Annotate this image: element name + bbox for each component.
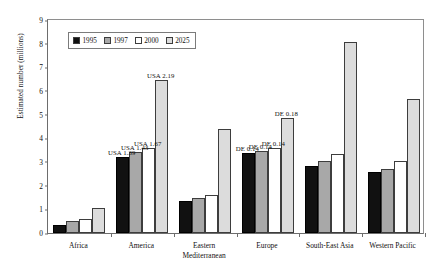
bar-western-pacific-2000[interactable] <box>394 161 407 233</box>
bar-series-container <box>48 20 423 233</box>
x-label-2: America <box>110 241 173 251</box>
x-tick-1 <box>111 233 112 237</box>
legend-swatch-icon-2000 <box>135 37 142 44</box>
x-tick-2 <box>174 233 175 237</box>
x-label-line1: Africa <box>47 241 110 251</box>
bar-europe-1997[interactable] <box>255 151 268 233</box>
x-label-6: Western Pacific <box>361 241 424 251</box>
x-label-line1: America <box>110 241 173 251</box>
x-label-4: Europe <box>236 241 299 251</box>
y-tick-0: 0 <box>39 229 48 238</box>
bar-western-pacific-2025[interactable] <box>407 99 420 233</box>
y-tick-5: 5 <box>39 110 48 119</box>
bar-africa-1997[interactable] <box>66 221 79 233</box>
bar-america-2000[interactable] <box>142 148 155 233</box>
bar-group-2 <box>116 20 168 233</box>
y-tick-8: 8 <box>39 39 48 48</box>
y-tick-6: 6 <box>39 86 48 95</box>
legend-label-2025: 2025 <box>175 37 189 45</box>
x-label-1: Africa <box>47 241 110 251</box>
bar-south-east-asia-2025[interactable] <box>344 42 357 233</box>
bar-africa-2000[interactable] <box>79 219 92 233</box>
x-label-line2: Mediterranean <box>173 251 236 261</box>
legend-item-1997[interactable]: 1997 <box>104 37 128 45</box>
legend-label-1997: 1997 <box>113 37 127 45</box>
bar-america-1995[interactable] <box>116 157 129 233</box>
bar-eastern-mediterranean-1995[interactable] <box>179 201 192 233</box>
bar-group-5 <box>305 20 357 233</box>
x-label-line1: Eastern <box>173 241 236 251</box>
bar-south-east-asia-1995[interactable] <box>305 166 318 233</box>
bar-europe-1995[interactable] <box>242 153 255 233</box>
bar-europe-2025[interactable] <box>281 118 294 233</box>
bar-eastern-mediterranean-2000[interactable] <box>205 195 218 233</box>
bar-eastern-mediterranean-1997[interactable] <box>192 198 205 233</box>
annotation-4: USA 2.19 <box>147 72 175 79</box>
annotation-3: USA 1.67 <box>134 140 162 147</box>
legend-item-2000[interactable]: 2000 <box>135 37 159 45</box>
y-tick-4: 4 <box>39 134 48 143</box>
bar-eastern-mediterranean-2025[interactable] <box>218 129 231 233</box>
legend-swatch-icon-1995 <box>73 37 80 44</box>
annotation-8: DE 0.18 <box>275 110 298 117</box>
bar-south-east-asia-1997[interactable] <box>318 161 331 233</box>
bar-europe-2000[interactable] <box>268 148 281 233</box>
bar-south-east-asia-2000[interactable] <box>331 154 344 233</box>
bar-group-1 <box>53 20 105 233</box>
legend-swatch-icon-1997 <box>104 37 111 44</box>
y-tick-7: 7 <box>39 63 48 72</box>
x-label-line1: Western Pacific <box>361 241 424 251</box>
x-label-line1: Europe <box>236 241 299 251</box>
plot-area: 9 8 7 6 5 4 3 2 1 0 <box>47 19 424 234</box>
legend-label-2000: 2000 <box>144 37 158 45</box>
legend-label-1995: 1995 <box>83 37 97 45</box>
y-tick-3: 3 <box>39 157 48 166</box>
legend-item-1995[interactable]: 1995 <box>73 37 97 45</box>
bar-africa-1995[interactable] <box>53 225 66 233</box>
y-tick-1: 1 <box>39 205 48 214</box>
x-tick-3 <box>237 233 238 237</box>
bar-group-4 <box>242 20 294 233</box>
x-tick-6 <box>425 233 426 237</box>
bar-group-3 <box>179 20 231 233</box>
bar-america-2025[interactable] <box>155 80 168 233</box>
bar-chart-figure: Estimated number (millions) 9 8 7 6 5 4 … <box>0 0 445 275</box>
annotation-7: DE 0.14 <box>262 140 285 147</box>
bar-america-1997[interactable] <box>129 152 142 233</box>
bar-western-pacific-1995[interactable] <box>368 172 381 233</box>
y-tick-9: 9 <box>39 16 48 25</box>
x-tick-5 <box>362 233 363 237</box>
x-label-5: South-East Asia <box>298 241 361 251</box>
legend-item-2025[interactable]: 2025 <box>166 37 190 45</box>
bar-group-6 <box>368 20 420 233</box>
x-label-3: EasternMediterranean <box>173 241 236 260</box>
x-tick-4 <box>299 233 300 237</box>
x-label-line1: South-East Asia <box>298 241 361 251</box>
legend: 1995 1997 2000 2025 <box>68 32 196 49</box>
y-axis-title: Estimated number (millions) <box>17 16 25 136</box>
y-tick-2: 2 <box>39 181 48 190</box>
bar-western-pacific-1997[interactable] <box>381 169 394 234</box>
bar-africa-2025[interactable] <box>92 208 105 233</box>
legend-swatch-icon-2025 <box>166 37 173 44</box>
